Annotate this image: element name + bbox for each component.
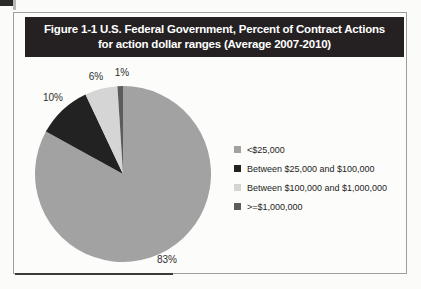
pie-chart [35, 86, 211, 262]
legend-item: Between $25,000 and $100,000 [234, 159, 387, 178]
pie-data-label-lt25000: 83% [157, 254, 177, 265]
legend-swatch [234, 203, 241, 210]
legend-swatch [234, 146, 241, 153]
legend-item: >=$1,000,000 [234, 197, 387, 216]
chart-title-line-1: Figure 1-1 U.S. Federal Government, Perc… [25, 22, 404, 37]
legend-item: Between $100,000 and $1,000,000 [234, 178, 387, 197]
legend-item: <$25,000 [234, 140, 387, 159]
legend-label: >=$1,000,000 [247, 202, 303, 212]
pie-data-label-25000-100000: 10% [43, 92, 63, 103]
chart-frame: Figure 1-1 U.S. Federal Government, Perc… [13, 12, 407, 274]
legend-label: Between $100,000 and $1,000,000 [247, 183, 387, 193]
page-edge-artifact-shadow [13, 0, 16, 10]
legend-label: <$25,000 [247, 145, 285, 155]
scanned-page: Figure 1-1 U.S. Federal Government, Perc… [0, 0, 421, 289]
pie-data-label-100000-1000000: 6% [89, 71, 103, 82]
legend: <$25,000Between $25,000 and $100,000Betw… [234, 140, 387, 216]
legend-label: Between $25,000 and $100,000 [247, 164, 375, 174]
frame-bottom-dark-segment [15, 273, 173, 275]
chart-title-bar: Figure 1-1 U.S. Federal Government, Perc… [25, 17, 404, 57]
legend-swatch [234, 165, 241, 172]
chart-title-line-2: for action dollar ranges (Average 2007-2… [25, 37, 404, 52]
pie-data-label-gte1000000: 1% [115, 67, 129, 78]
legend-swatch [234, 184, 241, 191]
